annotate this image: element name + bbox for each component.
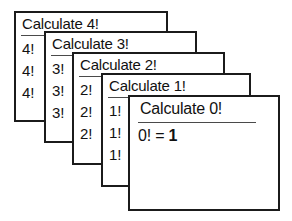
diagram-canvas: Calculate 4! 4! 4! 4! Calculate 3! 3! 3!… [0, 0, 292, 221]
card-title: Calculate 1! [109, 77, 186, 95]
call-frame-card-0: Calculate 0! 0! = 1 [128, 95, 280, 211]
card-body: 0! = 1 [138, 125, 278, 209]
base-case-value: 1 [169, 127, 178, 144]
title-divider [138, 122, 256, 123]
base-case-expression: 0! = [138, 127, 169, 144]
base-case-result: 0! = 1 [138, 125, 278, 147]
card-title: Calculate 0! [140, 100, 222, 118]
card-title: Calculate 2! [80, 56, 157, 74]
card-title: Calculate 3! [52, 35, 129, 53]
